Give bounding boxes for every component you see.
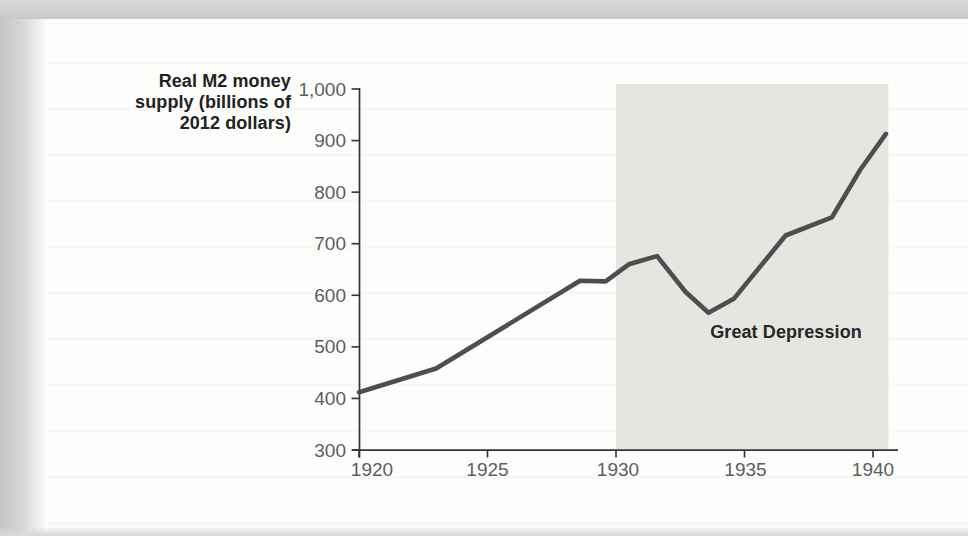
y-axis-title-line3: 2012 dollars)	[60, 113, 291, 134]
y-axis-title: Real M2 money supply (billions of 2012 d…	[60, 71, 291, 134]
x-tick-label: 1930	[597, 459, 639, 480]
y-tick-label: 500	[314, 336, 346, 357]
y-axis-title-line2: supply (billions of	[60, 92, 291, 113]
shaded-region-group	[616, 84, 888, 449]
y-tick-label: 900	[314, 130, 346, 151]
y-tick-label: 300	[314, 440, 346, 461]
x-tick-label: 1925	[466, 459, 508, 480]
great-depression-label: Great Depression	[708, 322, 864, 343]
y-tick-label: 600	[314, 285, 346, 306]
y-tick-label: 800	[314, 182, 346, 203]
y-tick-label: 700	[314, 233, 346, 254]
figure-canvas: 3004005006007008009001,00019201925193019…	[0, 0, 968, 536]
x-tick-label: 1940	[852, 459, 894, 480]
y-tick-label: 1,000	[298, 79, 346, 100]
great-depression-shaded-region	[616, 84, 888, 449]
y-axis-title-line1: Real M2 money	[60, 71, 291, 92]
y-tick-label: 400	[314, 388, 346, 409]
x-tick-label: 1920	[351, 459, 393, 480]
x-tick-label: 1935	[724, 459, 766, 480]
